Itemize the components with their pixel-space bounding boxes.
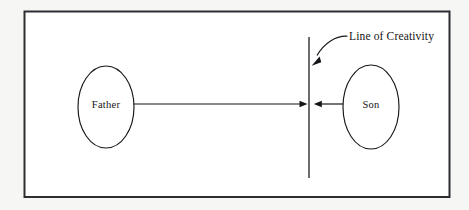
- line-of-creativity-diagram: Father Son Line of Creativity: [0, 0, 469, 210]
- node-son-label: Son: [362, 99, 380, 110]
- line-of-creativity-label: Line of Creativity: [349, 30, 434, 43]
- node-father-label: Father: [92, 99, 121, 110]
- diagram-canvas: Father Son Line of Creativity: [0, 0, 469, 210]
